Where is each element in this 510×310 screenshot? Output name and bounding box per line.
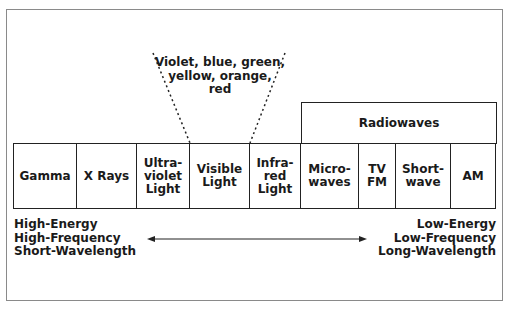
end-label-line: Long-Wavelength bbox=[378, 245, 496, 259]
band-microwaves: Micro- waves bbox=[300, 143, 359, 209]
visible-colors-line: yellow, orange, bbox=[150, 70, 290, 84]
band-label: X Rays bbox=[84, 170, 129, 183]
band-infrared: Infra- red Light bbox=[249, 143, 301, 209]
band-label: Light bbox=[144, 183, 183, 196]
end-label-line: Low-Energy bbox=[378, 218, 496, 232]
end-label-line: High-Energy bbox=[14, 218, 136, 232]
band-tv-fm: TV FM bbox=[358, 143, 396, 209]
end-label-line: Low-Frequency bbox=[378, 232, 496, 246]
band-label: FM bbox=[367, 176, 387, 189]
band-label: Light bbox=[197, 176, 242, 189]
band-label: AM bbox=[462, 170, 483, 183]
band-label: Ultra- bbox=[144, 157, 183, 170]
band-label: Infra- bbox=[256, 157, 293, 170]
band-gamma: Gamma bbox=[13, 143, 77, 209]
band-ultraviolet: Ultra- violet Light bbox=[136, 143, 190, 209]
radiowaves-group-label: Radiowaves bbox=[301, 102, 497, 144]
band-shortwave: Short- wave bbox=[395, 143, 451, 209]
band-label: Gamma bbox=[19, 170, 70, 183]
low-energy-label: Low-Energy Low-Frequency Long-Wavelength bbox=[378, 218, 496, 259]
double-headed-arrow-icon bbox=[147, 236, 367, 242]
visible-colors-line: red bbox=[150, 83, 290, 97]
band-label: waves bbox=[308, 176, 350, 189]
visible-colors-line: Violet, blue, green, bbox=[150, 56, 290, 70]
band-label: red bbox=[256, 170, 293, 183]
visible-colors-label: Violet, blue, green, yellow, orange, red bbox=[150, 56, 290, 97]
band-x-rays: X Rays bbox=[76, 143, 137, 209]
band-label: violet bbox=[144, 170, 183, 183]
end-label-line: High-Frequency bbox=[14, 232, 136, 246]
band-visible: Visible Light bbox=[189, 143, 250, 209]
band-am: AM bbox=[450, 143, 496, 209]
end-label-line: Short-Wavelength bbox=[14, 245, 136, 259]
high-energy-label: High-Energy High-Frequency Short-Wavelen… bbox=[14, 218, 136, 259]
band-label: Light bbox=[256, 183, 293, 196]
band-label: wave bbox=[402, 176, 444, 189]
